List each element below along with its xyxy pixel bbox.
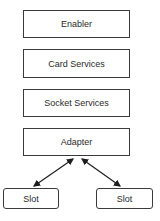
slot-left-label: Slot	[23, 194, 39, 204]
slot-right-label: Slot	[117, 194, 133, 204]
slot-left-box: Slot	[3, 188, 59, 209]
slot-right-box: Slot	[96, 188, 153, 209]
arrow-adapter-slot-right	[82, 159, 120, 186]
arrow-adapter-slot-left	[34, 159, 73, 186]
